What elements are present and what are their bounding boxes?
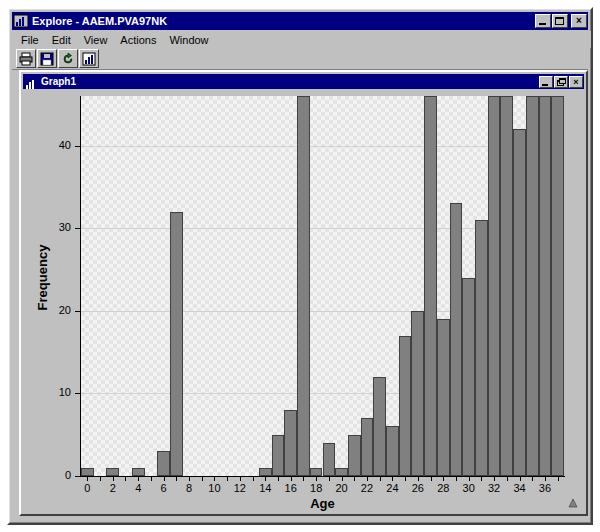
- x-axis-tick: [342, 477, 343, 481]
- x-axis-tick: [545, 477, 546, 481]
- x-axis-tick: [176, 477, 177, 481]
- x-axis-tick: [481, 477, 482, 481]
- x-axis-tick-label: 0: [75, 482, 99, 494]
- bar[interactable]: [297, 96, 310, 476]
- bar-chart-icon: [24, 76, 38, 88]
- y-axis-title: Frequency: [35, 218, 50, 338]
- x-axis-tick: [113, 477, 114, 481]
- chart-app-icon: [13, 14, 29, 28]
- bar[interactable]: [450, 203, 463, 476]
- minimize-button[interactable]: [535, 14, 551, 28]
- x-axis-tick: [253, 477, 254, 481]
- x-axis-tick-label: 2: [101, 482, 125, 494]
- x-axis-tick-label: 34: [508, 482, 532, 494]
- y-axis-tick-label: 40: [23, 139, 71, 151]
- restore-button[interactable]: [554, 76, 568, 88]
- histogram-chart: 010203040 024681012141618202224262830323…: [23, 90, 584, 512]
- graph-titlebar[interactable]: Graph1 ×: [23, 74, 584, 89]
- bar[interactable]: [411, 311, 424, 476]
- x-axis-tick-label: 22: [355, 482, 379, 494]
- bar[interactable]: [424, 96, 437, 476]
- close-icon: ×: [572, 15, 586, 27]
- bar[interactable]: [272, 435, 285, 476]
- x-axis-tick: [443, 477, 444, 481]
- bar[interactable]: [323, 443, 336, 476]
- minimize-button[interactable]: [539, 76, 553, 88]
- bar[interactable]: [81, 468, 94, 476]
- menu-item-window[interactable]: Window: [163, 32, 215, 48]
- bar[interactable]: [259, 468, 272, 476]
- y-axis-tick-label: 10: [23, 386, 71, 398]
- x-axis-tick: [240, 477, 241, 481]
- bar[interactable]: [310, 468, 323, 476]
- x-axis-tick: [100, 477, 101, 481]
- x-axis-tick: [316, 477, 317, 481]
- bar[interactable]: [475, 220, 488, 476]
- bar-series: [81, 96, 564, 476]
- x-axis-tick: [507, 477, 508, 481]
- menu-item-edit[interactable]: Edit: [46, 32, 78, 48]
- y-axis-tick-label: 0: [23, 469, 71, 481]
- bar[interactable]: [170, 212, 183, 476]
- x-axis-tick-label: 30: [457, 482, 481, 494]
- close-button[interactable]: ×: [569, 76, 583, 88]
- x-axis-tick: [202, 477, 203, 481]
- menu-item-file[interactable]: File: [15, 32, 46, 48]
- x-axis-tick-label: 24: [380, 482, 404, 494]
- bar[interactable]: [437, 319, 450, 476]
- printer-icon: [19, 52, 34, 66]
- window-titlebar[interactable]: Explore - AAEM.PVA97NK ×: [12, 12, 588, 30]
- x-axis-tick: [405, 477, 406, 481]
- x-axis-tick-label: 26: [406, 482, 430, 494]
- graph-button[interactable]: [79, 49, 99, 68]
- x-axis-tick-label: 16: [279, 482, 303, 494]
- bar[interactable]: [284, 410, 297, 476]
- save-button[interactable]: [37, 49, 57, 68]
- x-axis-tick: [494, 477, 495, 481]
- maximize-button[interactable]: [552, 14, 568, 28]
- x-axis-tick: [392, 477, 393, 481]
- bar-chart-icon: [82, 52, 97, 66]
- x-axis-tick-label: 18: [304, 482, 328, 494]
- bar[interactable]: [373, 377, 386, 476]
- bar[interactable]: [348, 435, 361, 476]
- bar[interactable]: [551, 96, 564, 476]
- bar[interactable]: [106, 468, 119, 476]
- floppy-disk-icon: [40, 52, 55, 66]
- bar[interactable]: [157, 451, 170, 476]
- graph-title: Graph1: [41, 74, 76, 89]
- x-axis-tick: [227, 477, 228, 481]
- menubar: File Edit View Actions Window: [12, 31, 591, 48]
- bar[interactable]: [361, 418, 374, 476]
- x-axis-tick: [532, 477, 533, 481]
- x-axis-tick: [291, 477, 292, 481]
- bar[interactable]: [335, 468, 348, 476]
- x-axis-title: Age: [81, 496, 564, 511]
- bar[interactable]: [132, 468, 145, 476]
- x-axis-tick: [303, 477, 304, 481]
- x-axis-tick-label: 12: [228, 482, 252, 494]
- refresh-arrow-icon: [61, 52, 76, 66]
- menu-item-actions[interactable]: Actions: [114, 32, 163, 48]
- window-controls: ×: [534, 14, 587, 28]
- bar[interactable]: [386, 426, 399, 476]
- graph-window-controls: ×: [538, 76, 583, 88]
- x-axis-tick-label: 20: [330, 482, 354, 494]
- bar[interactable]: [539, 96, 552, 476]
- bar[interactable]: [488, 96, 501, 476]
- close-button[interactable]: ×: [571, 14, 587, 28]
- print-button[interactable]: [16, 49, 36, 68]
- refresh-button[interactable]: [58, 49, 78, 68]
- x-axis-line: [80, 476, 565, 477]
- bar[interactable]: [462, 278, 475, 476]
- bar[interactable]: [500, 96, 513, 476]
- x-axis-tick: [418, 477, 419, 481]
- bar[interactable]: [513, 129, 526, 476]
- bar[interactable]: [526, 96, 539, 476]
- x-axis-tick: [380, 477, 381, 481]
- bar[interactable]: [399, 336, 412, 476]
- close-icon: ×: [570, 77, 582, 87]
- menu-item-view[interactable]: View: [78, 32, 115, 48]
- x-axis-tick-label: 14: [253, 482, 277, 494]
- desktop-background: Explore - AAEM.PVA97NK × File Edit View …: [0, 0, 600, 532]
